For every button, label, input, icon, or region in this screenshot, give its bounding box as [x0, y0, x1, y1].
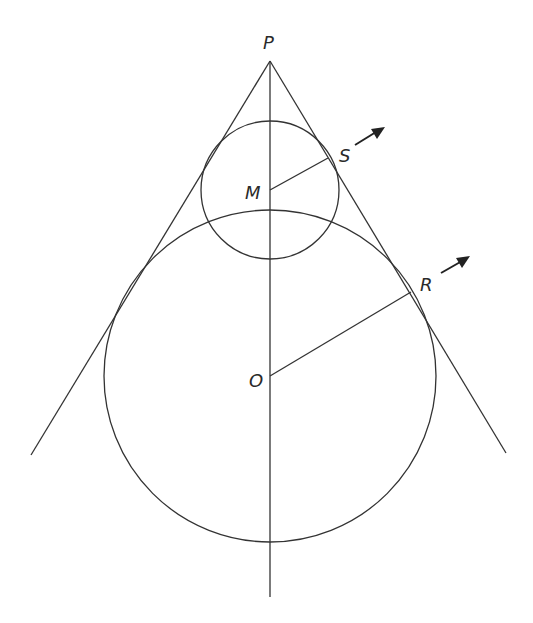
label-O: O [249, 370, 263, 391]
left-tangent-line [31, 61, 270, 455]
arrow-at-R [441, 256, 470, 273]
arrow-shaft [441, 261, 462, 273]
label-S: S [339, 145, 350, 166]
label-M: M [245, 182, 261, 203]
radius-MS [270, 158, 328, 190]
arrow-head-icon [456, 256, 470, 268]
arrow-shaft [355, 132, 376, 145]
arrow-at-S [355, 127, 385, 145]
label-R: R [420, 274, 433, 295]
label-P: P [263, 32, 274, 53]
radius-OR [270, 292, 411, 376]
right-tangent-line [270, 61, 506, 453]
geometry-diagram: P M S O R [0, 0, 533, 623]
